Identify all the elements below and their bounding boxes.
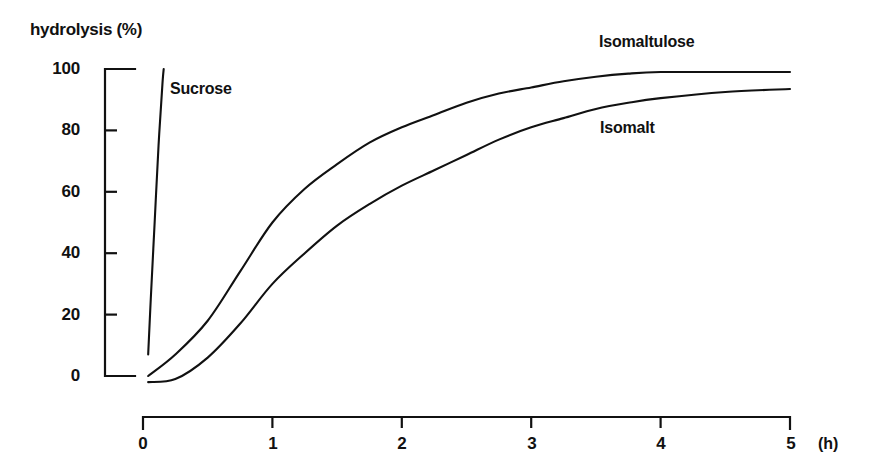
x-axis: [143, 417, 790, 429]
y-axis: [105, 69, 135, 376]
hydrolysis-chart: hydrolysis (%) 100 80 60 40 20 0 0 1 2 3…: [0, 0, 876, 474]
curve-sucrose: [148, 69, 164, 355]
curve-isomalt: [148, 89, 790, 382]
curve-isomaltulose: [148, 72, 790, 376]
data-curves: [148, 69, 790, 382]
plot-area: [0, 0, 876, 474]
